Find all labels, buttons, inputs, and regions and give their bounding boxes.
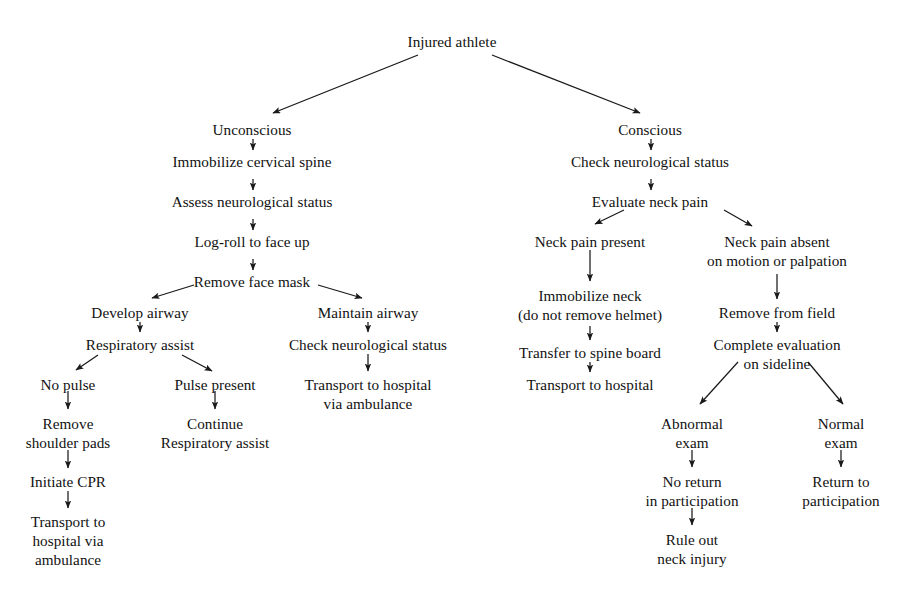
node-normal-exam: Normalexam xyxy=(818,414,865,452)
flow-arrow xyxy=(182,355,212,371)
node-neck-pain-absent: Neck pain absenton motion or palpation xyxy=(707,232,847,270)
node-maintain-airway: Maintain airway xyxy=(318,303,419,322)
node-label-line: Normal xyxy=(818,414,865,433)
node-label-line: Transport to hospital xyxy=(304,375,431,394)
node-transport-to-hospital-right: Transport to hospital xyxy=(526,375,653,394)
node-neck-pain-present: Neck pain present xyxy=(535,232,646,251)
node-check-neurological-status-left: Check neurological status xyxy=(289,335,447,354)
node-label-line: Develop airway xyxy=(91,303,188,322)
node-label-line: neck injury xyxy=(657,549,726,568)
node-evaluate-neck-pain: Evaluate neck pain xyxy=(592,192,708,211)
node-pulse-present: Pulse present xyxy=(174,375,255,394)
node-label-line: Pulse present xyxy=(174,375,255,394)
node-label-line: Remove face mask xyxy=(194,272,310,291)
node-transport-hospital-ambulance-left: Transport tohospital viaambulance xyxy=(31,512,106,569)
edge-layer xyxy=(0,0,905,594)
node-label-line: exam xyxy=(818,433,865,452)
node-develop-airway: Develop airway xyxy=(91,303,188,322)
node-label-line: Rule out xyxy=(657,530,726,549)
flowchart-diagram: partial cut-off line Injured athleteUnco… xyxy=(0,0,905,594)
flow-arrow xyxy=(318,285,362,298)
flow-arrow xyxy=(492,55,640,113)
node-continue-respiratory-assist: ContinueRespiratory assist xyxy=(161,414,269,452)
node-return-to-participation: Return toparticipation xyxy=(802,472,879,510)
node-remove-face-mask: Remove face mask xyxy=(194,272,310,291)
node-label-line: Initiate CPR xyxy=(30,472,106,491)
node-label-line: Return to xyxy=(802,472,879,491)
edges-group xyxy=(68,55,843,525)
node-label-line: Unconscious xyxy=(212,120,291,139)
node-abnormal-exam: Abnormalexam xyxy=(661,414,723,452)
node-unconscious: Unconscious xyxy=(212,120,291,139)
node-label-line: participation xyxy=(802,491,879,510)
node-injured-athlete: Injured athlete xyxy=(408,32,497,51)
node-label-line: Injured athlete xyxy=(408,32,497,51)
node-label-line: No pulse xyxy=(41,375,96,394)
node-label-line: Immobilize neck xyxy=(518,286,662,305)
node-label-line: Log-roll to face up xyxy=(194,232,309,251)
node-label-line: Immobilize cervical spine xyxy=(173,152,332,171)
node-label-line: (do not remove helmet) xyxy=(518,305,662,324)
node-label-line: on motion or palpation xyxy=(707,251,847,270)
node-transport-hospital-via-ambulance-mid: Transport to hospitalvia ambulance xyxy=(304,375,431,413)
flow-arrow xyxy=(152,285,194,298)
node-label-line: Neck pain absent xyxy=(707,232,847,251)
node-label-line: Remove xyxy=(26,414,111,433)
node-label-line: Respiratory assist xyxy=(161,433,269,452)
node-no-pulse: No pulse xyxy=(41,375,96,394)
node-label-line: Neck pain present xyxy=(535,232,646,251)
node-label-line: Check neurological status xyxy=(289,335,447,354)
node-label-line: No return xyxy=(645,472,738,491)
flow-arrow xyxy=(595,210,624,224)
node-label-line: Transfer to spine board xyxy=(519,343,661,362)
node-rule-out-neck-injury: Rule outneck injury xyxy=(657,530,726,568)
node-label-line: ambulance xyxy=(31,550,106,569)
node-label-line: Continue xyxy=(161,414,269,433)
node-immobilize-cervical-spine: Immobilize cervical spine xyxy=(173,152,332,171)
node-label-line: Evaluate neck pain xyxy=(592,192,708,211)
node-remove-shoulder-pads: Removeshoulder pads xyxy=(26,414,111,452)
node-label-line: Check neurological status xyxy=(571,152,729,171)
node-label-line: Abnormal xyxy=(661,414,723,433)
node-label-line: in participation xyxy=(645,491,738,510)
node-transfer-to-spine-board: Transfer to spine board xyxy=(519,343,661,362)
node-label-line: Complete evaluation xyxy=(713,335,840,354)
node-conscious: Conscious xyxy=(618,120,682,139)
node-label-line: exam xyxy=(661,433,723,452)
node-complete-evaluation: Complete evaluationon sideline xyxy=(713,335,840,373)
node-check-neurological-status-right: Check neurological status xyxy=(571,152,729,171)
node-respiratory-assist: Respiratory assist xyxy=(86,335,194,354)
node-label-line: Assess neurological status xyxy=(172,192,333,211)
node-immobilize-neck: Immobilize neck(do not remove helmet) xyxy=(518,286,662,324)
flow-arrow xyxy=(273,55,418,113)
node-initiate-cpr: Initiate CPR xyxy=(30,472,106,491)
node-label-line: hospital via xyxy=(31,531,106,550)
node-label-line: shoulder pads xyxy=(26,433,111,452)
node-label-line: Maintain airway xyxy=(318,303,419,322)
node-log-roll-to-face-up: Log-roll to face up xyxy=(194,232,309,251)
node-label-line: Remove from field xyxy=(719,303,835,322)
flow-arrow xyxy=(724,210,752,226)
node-label-line: Transport to hospital xyxy=(526,375,653,394)
node-label-line: via ambulance xyxy=(304,394,431,413)
flow-arrow xyxy=(76,355,98,370)
node-remove-from-field: Remove from field xyxy=(719,303,835,322)
node-no-return-in-participation: No returnin participation xyxy=(645,472,738,510)
node-label-line: Transport to xyxy=(31,512,106,531)
node-label-line: Respiratory assist xyxy=(86,335,194,354)
node-assess-neurological-status: Assess neurological status xyxy=(172,192,333,211)
node-label-line: Conscious xyxy=(618,120,682,139)
node-label-line: on sideline xyxy=(713,354,840,373)
